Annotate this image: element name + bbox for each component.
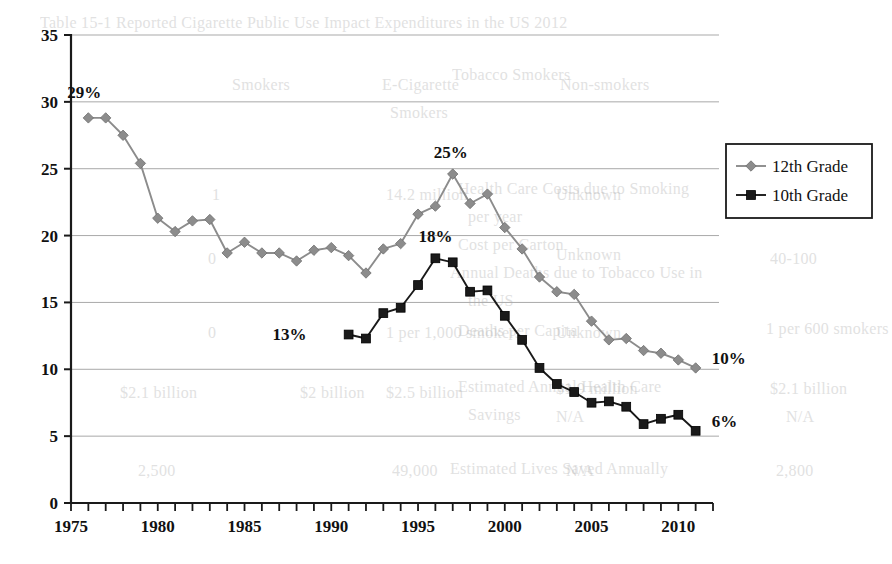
data-point-marker [326, 242, 336, 252]
legend-box [726, 144, 872, 218]
data-point-marker [448, 169, 458, 179]
y-axis-tick-label: 35 [41, 26, 58, 45]
y-axis-tick-label: 30 [41, 93, 58, 112]
legend-item-label: 12th Grade [772, 157, 848, 176]
data-point-marker [535, 364, 544, 373]
data-point-marker [656, 348, 666, 358]
x-axis-tick-label: 2005 [575, 517, 609, 536]
data-point-marker [690, 363, 700, 373]
data-point-label: 6% [712, 412, 738, 431]
data-point-marker [222, 248, 232, 258]
data-point-marker [587, 398, 596, 407]
data-point-marker [379, 309, 388, 318]
x-axis-tick-label: 1980 [141, 517, 175, 536]
data-point-marker [396, 303, 405, 312]
data-point-marker [466, 287, 475, 296]
data-point-marker [673, 355, 683, 365]
x-axis: 19751980198519901995200020052010 [54, 503, 713, 536]
data-point-label: 18% [418, 227, 452, 246]
gridlines [71, 35, 719, 436]
data-point-label: 25% [434, 143, 468, 162]
series-12th-grade [83, 113, 701, 373]
y-axis-tick-label: 25 [41, 160, 58, 179]
data-point-marker [362, 334, 371, 343]
data-point-marker [430, 201, 440, 211]
data-point-marker [344, 330, 353, 339]
data-point-marker [604, 397, 613, 406]
data-point-marker [239, 237, 249, 247]
data-point-marker [569, 289, 579, 299]
data-point-marker [552, 380, 561, 389]
data-point-marker [570, 388, 579, 397]
data-point-marker [309, 245, 319, 255]
y-axis-tick-label: 15 [41, 293, 58, 312]
data-point-marker [413, 209, 423, 219]
data-point-label: 29% [67, 83, 101, 102]
series-10th-grade [344, 254, 700, 435]
data-point-marker [448, 258, 457, 267]
chart-container: Table 15-1 Reported Cigarette Public Use… [0, 0, 892, 564]
data-series-group [83, 113, 701, 435]
data-point-marker [657, 414, 666, 423]
data-point-label: 10% [712, 349, 746, 368]
data-point-marker [483, 286, 492, 295]
data-point-marker [639, 420, 648, 429]
x-axis-tick-label: 1995 [401, 517, 435, 536]
data-point-marker [135, 158, 145, 168]
x-axis-tick-label: 1990 [314, 517, 348, 536]
x-axis-tick-label: 1975 [54, 517, 88, 536]
legend-item-label: 10th Grade [772, 186, 848, 205]
data-point-marker [395, 238, 405, 248]
data-point-marker [257, 248, 267, 258]
series-line [88, 118, 695, 368]
data-point-marker [622, 402, 631, 411]
data-point-marker [482, 189, 492, 199]
data-point-marker [291, 256, 301, 266]
data-point-marker [431, 254, 440, 263]
data-point-marker [691, 426, 700, 435]
y-axis-tick-label: 10 [41, 360, 58, 379]
data-point-marker [187, 216, 197, 226]
x-axis-tick-label: 2000 [488, 517, 522, 536]
chart-legend[interactable]: 12th Grade10th Grade [726, 144, 872, 218]
data-point-marker [205, 214, 215, 224]
data-point-marker [674, 410, 683, 419]
data-point-marker [500, 311, 509, 320]
y-axis-tick-label: 0 [50, 494, 59, 513]
line-chart: 05101520253035 1975198019851990199520002… [0, 0, 892, 564]
data-point-marker [414, 281, 423, 290]
data-point-marker [274, 248, 284, 258]
data-point-marker [747, 191, 756, 200]
data-point-marker [83, 113, 93, 123]
data-point-label: 13% [273, 325, 307, 344]
x-axis-tick-label: 1985 [228, 517, 262, 536]
y-axis-tick-label: 20 [41, 227, 58, 246]
data-point-marker [518, 335, 527, 344]
x-axis-tick-label: 2010 [661, 517, 695, 536]
y-axis-tick-label: 5 [50, 427, 59, 446]
data-point-labels: 29%25%18%13%10%6% [67, 83, 745, 431]
data-point-marker [465, 198, 475, 208]
